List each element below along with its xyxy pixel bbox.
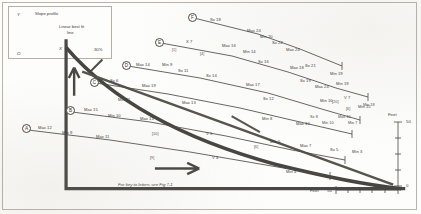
horizontal-scale-title: Feet [310,188,319,193]
profile-marker-f: F [188,13,197,22]
label-d-0: Max 14 [136,63,150,67]
label-d-3: Sx 14 [206,74,217,78]
label-b-2: Max 13 [140,117,154,121]
label-d-7: [20] [332,101,339,105]
label-e-1: [1] [172,49,176,53]
label-e-2: [4] [200,53,204,57]
label-d-10: [6] [346,108,350,112]
profile-marker-d: D [122,61,131,70]
label-c-2: Min 11 [118,98,130,102]
label-b-3: [10] [152,133,159,137]
label-c-5: Max 10 [296,122,310,126]
vertical-scale-top: 50 [406,119,411,124]
label-d-2: Sx 11 [178,69,188,73]
label-b-1: Min 10 [108,114,121,118]
label-d-9: Min 15 [358,105,371,109]
label-f-3: Sx 22 [272,41,283,45]
label-c-3: Max 13 [182,101,196,105]
label-a-0: Max 12 [38,126,52,130]
profile-marker-c: C [90,78,99,87]
profile-marker-a: A [22,124,31,133]
label-d-5: Sx 12 [263,97,274,101]
label-a-4: V 4 [212,156,218,160]
label-e-6: Max 18 [290,66,304,70]
label-c-4: Min 8 [262,117,272,121]
label-a-2: Max 11 [96,135,109,139]
label-d-8: V 7 [344,96,350,100]
profile-marker-e: E [155,38,164,47]
label-b-9: Min 3 [352,150,362,154]
label-b-4: V 5 [206,132,212,136]
label-b-8: Sx 5 [330,148,338,152]
horizontal-scale-value: 50 [327,188,332,193]
label-c-0: Sx 6 [110,79,118,83]
label-e-8: Max 24 [315,85,329,89]
label-c-8: Min 7 [348,122,358,126]
label-e-0: X 7 [186,40,192,44]
label-f-5: Sx 21 [305,64,316,68]
label-f-0: Sx 18 [210,18,221,22]
label-f-2: Min 20 [260,35,273,39]
label-b-5: [6] [254,146,258,150]
label-f-1: Max 24 [247,29,261,33]
label-b-0: Max 15 [84,108,98,112]
figure-slope-profiles: Slope profile Linear best fit line Y X O… [0,0,421,214]
label-a-1: Min 9 [62,131,72,135]
profile-marker-b: B [66,106,75,115]
label-e-7: Sx 19 [300,79,311,83]
vertical-scale-title: Feet [388,112,397,117]
label-e-5: Sx 16 [258,60,269,64]
label-e-9: Min 19 [336,82,349,86]
label-b-7: Max 7 [300,144,311,148]
label-d-1: Min 9 [162,63,172,67]
label-e-3: Max 16 [222,44,236,48]
label-f-6: Min 19 [330,72,343,76]
label-c-9: Sx 8 [310,116,318,120]
figure-caption: For key to letters see Fig 7-1 [118,182,173,187]
label-b-6: Min 5 [270,140,280,144]
vertical-scale-bottom: 0 [406,183,408,188]
label-c-6: Min 10 [322,122,334,126]
label-d-4: Max 17 [246,83,260,87]
label-c-1: Max 19 [142,84,156,88]
label-f-4: Max 24 [286,48,300,52]
label-a-3: [9] [150,157,154,161]
label-d-6: Min 10 [320,99,333,103]
label-c-7: Max 10 [338,116,351,120]
label-e-4: Min 14 [243,50,256,54]
label-a-5: Min 4 [286,170,296,174]
